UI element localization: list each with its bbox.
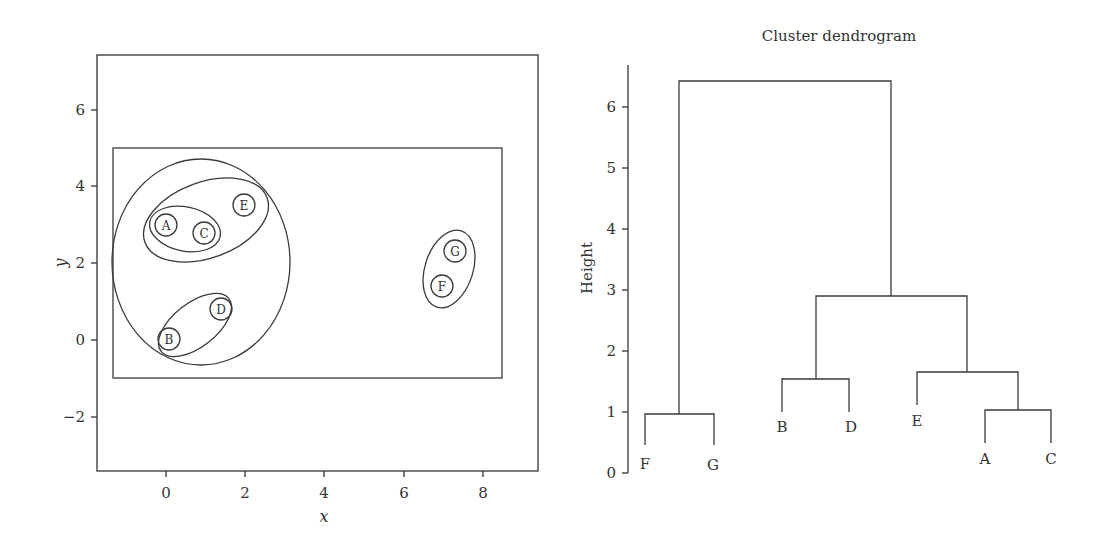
point-e: E [233,194,255,216]
height-axis-title: Height [578,242,596,294]
chart-title: Cluster dendrogram [762,27,916,45]
link-e-ac [917,372,1018,410]
link-bd-eac [816,296,967,379]
plot-frame [97,55,538,471]
point-g: G [444,240,466,262]
point-b: B [158,328,180,350]
cluster-ellipse-ac [145,200,225,258]
cluster-ellipse-ace [132,162,280,278]
y-axis-title: y [51,258,70,269]
height-tick-label: 1 [606,403,616,421]
x-axis-ticks: 0 2 4 6 8 [161,471,488,502]
link-f-g [645,414,714,445]
point-d: D [210,298,232,320]
svg-text:F: F [438,280,446,294]
dendrogram: Cluster dendrogram 0 1 2 3 4 5 6 Height [578,27,1057,482]
svg-text:C: C [199,227,208,241]
x-tick-label: 0 [161,484,171,502]
leaf-label-b: B [776,418,787,436]
cluster-ellipse-abcde [112,159,290,365]
link-root [679,81,891,414]
leaf-labels: F G B D E A C [640,412,1057,474]
y-tick-label: −2 [63,408,85,426]
x-tick-label: 6 [399,484,409,502]
x-tick-label: 2 [240,484,250,502]
svg-text:G: G [450,245,460,259]
y-tick-label: 0 [75,331,85,349]
svg-text:A: A [161,219,171,233]
dendrogram-links [645,81,1051,445]
leaf-label-d: D [845,418,857,436]
leaf-label-c: C [1045,450,1056,468]
x-tick-label: 8 [478,484,488,502]
height-tick-label: 5 [606,159,616,177]
data-points: A B C D E F G [155,194,466,350]
height-tick-label: 0 [606,464,616,482]
x-tick-label: 4 [319,484,329,502]
scatter-plot: −2 0 2 4 6 0 2 4 6 8 x y [51,55,538,526]
height-tick-label: 4 [606,220,616,238]
point-c: C [193,222,215,244]
cluster-ellipse-bd [148,281,243,369]
link-b-d [782,379,849,412]
leaf-label-f: F [640,455,650,473]
height-tick-label: 6 [606,98,616,116]
leaf-label-a: A [979,450,991,468]
height-tick-label: 2 [606,342,616,360]
figure: −2 0 2 4 6 0 2 4 6 8 x y [0,0,1106,548]
height-axis-ticks: 0 1 2 3 4 5 6 [606,98,628,482]
svg-text:B: B [165,333,174,347]
y-tick-label: 4 [75,177,85,195]
height-tick-label: 3 [606,281,616,299]
link-a-c [985,410,1051,443]
cluster-ellipse-fg [414,224,484,315]
x-axis-title: x [319,507,328,526]
y-tick-label: 6 [75,101,85,119]
point-f: F [431,275,453,297]
point-a: A [155,214,177,236]
svg-text:E: E [240,199,249,213]
y-tick-label: 2 [75,254,85,272]
leaf-label-e: E [912,412,923,430]
svg-text:D: D [216,303,226,317]
leaf-label-g: G [707,456,719,474]
